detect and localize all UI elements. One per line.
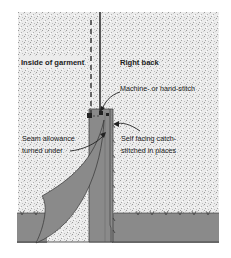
label-seam-allowance-2: turned under — [22, 146, 63, 155]
label-seam-allowance-1: Seam allowance — [22, 134, 75, 143]
stitch-point — [99, 111, 103, 115]
label-self-facing-2: stitched in places — [121, 146, 177, 155]
label-inside-of-garment: Inside of garment — [21, 58, 85, 67]
label-machine-or-hand-stitch: Machine- or hand-stitch — [120, 84, 195, 93]
label-self-facing-1: Self facing catch- — [121, 134, 177, 143]
sewing-diagram: Inside of garment Right back Machine- or… — [0, 0, 231, 258]
dashed-end-marker — [87, 113, 92, 118]
hem-right — [112, 213, 219, 243]
stitch-point — [106, 113, 109, 116]
label-right-back: Right back — [120, 58, 160, 67]
